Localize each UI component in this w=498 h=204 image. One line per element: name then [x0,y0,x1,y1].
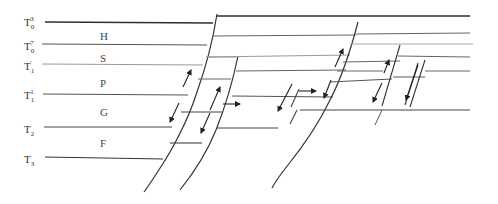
arrow-up-4 [384,60,389,73]
block3-horizon-c [343,61,400,62]
cross-section-svg [0,0,498,204]
arrow-down-1 [170,103,179,122]
left-block-horizons [42,22,213,159]
horizon-T3-left [45,157,163,159]
horizon-label-sup: 7 [30,39,34,47]
fault-3 [272,22,358,188]
unit-label-F: F [100,138,106,149]
horizon-label-sub: 2 [31,130,35,138]
arrow-down-2 [201,113,210,133]
block3-horizon-a [356,33,470,34]
unit-label-S: S [100,53,106,64]
horizon-T0-7-left [42,44,207,45]
horizon-label-T3: T3 [24,154,34,168]
fault-4 [382,45,400,106]
block2-horizon-d [232,96,333,97]
arrow-up-3 [335,49,343,67]
horizon-T1-prime-left [42,64,203,65]
horizon-label-T1-prime: T1′ [24,60,36,75]
arrow-down-4 [324,80,331,98]
arrow-down-3 [278,84,292,111]
minor-fault-a [291,89,299,107]
horizon-label-T0-3: T03 [24,16,38,31]
arrow-up-2 [210,87,220,110]
horizon-label-sub: 0 [31,23,35,31]
arrow-down-6 [406,65,418,100]
fault-1 [144,14,217,192]
horizon-label-sup: 3 [30,15,34,23]
horizon-T1-1-left [43,94,188,95]
block-4-horizons [393,56,470,77]
horizon-label-sub: 1 [31,96,35,104]
horizon-label-sup: 1 [30,88,34,96]
horizon-label-sub: 1 [31,67,35,75]
horizon-label-sub: 3 [31,160,35,168]
fault-6 [375,110,382,125]
unit-label-G: G [100,107,108,118]
horizon-label-T2: T2 [24,124,34,138]
minor-fault-b [290,110,297,124]
cross-section-diagram: T03 T07 T1′ T11 T2 T3 H S P G F [0,0,498,204]
horizon-label-T0-7: T07 [24,40,38,55]
block2-horizon-a [212,35,356,36]
unit-label-H: H [100,31,108,42]
arrow-down-5 [373,83,382,102]
unit-label-P: P [100,78,106,89]
arrow-up-1 [183,70,191,87]
block2-horizon-b [206,55,350,57]
block2-horizon-c [236,70,346,71]
horizon-label-base: T [24,123,31,135]
horizon-label-base: T [24,153,31,165]
horizon-label-T1-1: T11 [24,89,38,104]
horizon-label-sup: ′ [30,59,32,67]
block4-horizon-a [398,56,470,57]
horizon-label-sub: 0 [31,47,35,55]
horizon-T0-3-left [45,22,213,23]
